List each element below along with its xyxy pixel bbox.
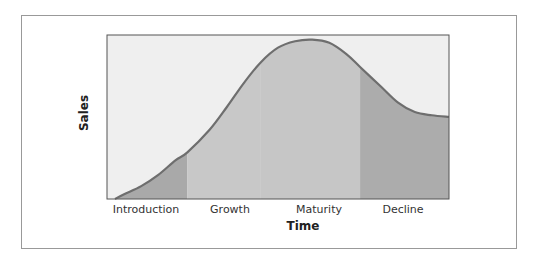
stage-label-growth: Growth	[210, 203, 250, 216]
stage-area-maturity	[261, 33, 360, 199]
stage-label-introduction: Introduction	[113, 203, 180, 216]
stage-label-maturity: Maturity	[296, 203, 342, 216]
y-axis-label: Sales	[77, 95, 91, 131]
x-axis-label: Time	[287, 219, 320, 233]
stage-label-decline: Decline	[382, 203, 423, 216]
